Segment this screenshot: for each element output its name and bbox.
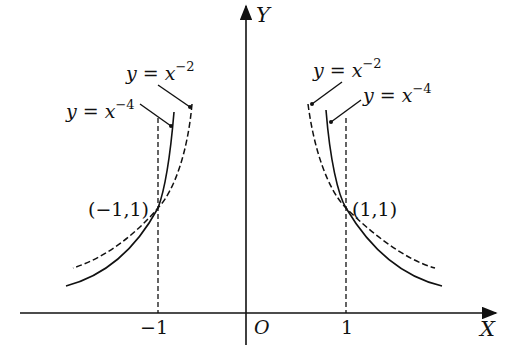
label-x-neg4-left: y = x−4 bbox=[65, 97, 135, 122]
leader-x-neg2-right bbox=[312, 82, 342, 104]
leader-x-neg4-left bbox=[140, 104, 171, 126]
y-axis-label: Y bbox=[256, 3, 272, 27]
tick-label-neg1: −1 bbox=[140, 316, 168, 338]
label-x-neg2-left: y = x−2 bbox=[125, 59, 195, 84]
leader-dot bbox=[310, 102, 314, 106]
tick-label-1: 1 bbox=[341, 316, 353, 338]
label-x-neg4-right: y = x−4 bbox=[362, 81, 432, 106]
power-function-diagram: y = x−2 y = x−4 y = x−2 y = x−4 (−1,1) (… bbox=[0, 0, 505, 353]
leader-x-neg2-left bbox=[158, 85, 190, 107]
leader-dot bbox=[188, 105, 192, 109]
leader-dot bbox=[329, 120, 333, 124]
leader-dot bbox=[169, 124, 173, 128]
point-label-1-1: (1,1) bbox=[352, 198, 397, 220]
curve-x-neg2-left bbox=[73, 104, 192, 268]
point-label-neg1-1: (−1,1) bbox=[88, 198, 149, 220]
label-x-neg2-right: y = x−2 bbox=[312, 56, 382, 81]
x-axis-label: X bbox=[478, 317, 496, 341]
origin-label: O bbox=[254, 316, 270, 338]
